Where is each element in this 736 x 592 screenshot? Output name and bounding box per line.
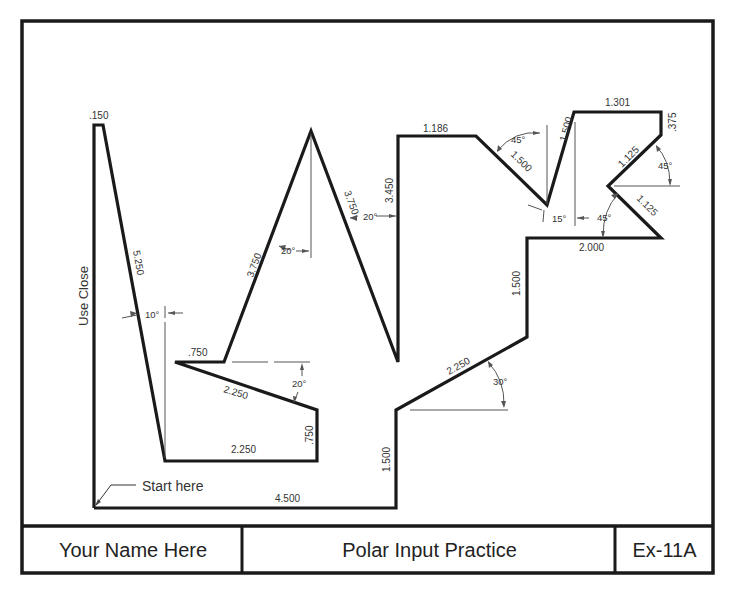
dim-inner-vertical: .750: [304, 425, 315, 445]
dim-angle-v: 45°: [511, 134, 526, 145]
dim-top-right-horizontal: 1.301: [605, 97, 630, 108]
dim-top-mid-horizontal: 1.186: [423, 123, 448, 134]
dim-bottom: 4.500: [275, 493, 300, 504]
title-block-author: Your Name Here: [24, 528, 242, 572]
dim-angle-peak-left: 20°: [281, 245, 296, 256]
title-block-sheet-id: Ex-11A: [617, 528, 712, 572]
drawing-sheet: .150 5.250 10° .750 2.250 20° .750 2.250…: [0, 0, 736, 592]
dim-peak-right: 3.750: [342, 189, 361, 217]
note-use-close: Use Close: [76, 266, 91, 326]
dim-angle-15: 15°: [552, 213, 567, 224]
dim-right-mid-vertical: 1.500: [511, 271, 522, 296]
dim-long-slope: 5.250: [131, 249, 146, 276]
dim-angle-lower-notch: 45°: [597, 212, 612, 223]
note-start-here: Start here: [142, 478, 204, 494]
dim-right-lower-vertical: 1.500: [381, 447, 392, 472]
dim-steep-edge: 1.500: [557, 115, 574, 142]
dim-inner-short: .750: [188, 347, 208, 358]
dim-angle-upper-notch: 45°: [658, 160, 673, 171]
part-outline: [94, 112, 661, 508]
dim-top-right-vertical: .375: [667, 112, 678, 132]
dim-step-horizontal: 2.000: [579, 242, 604, 253]
dim-tall-vertical: 3.450: [384, 178, 395, 203]
dim-angle-peak-right: 20°: [363, 211, 378, 222]
dim-angle-inner: 20°: [292, 378, 307, 389]
start-leader: [96, 485, 136, 505]
title-block-title: Polar Input Practice: [244, 528, 615, 572]
dim-inner-bottom: 2.250: [231, 444, 256, 455]
dimension-labels: .150 5.250 10° .750 2.250 20° .750 2.250…: [89, 97, 678, 504]
dim-angle-long: 10°: [145, 309, 160, 320]
dim-angle-30: 30°: [493, 376, 508, 387]
dim-top-tip: .150: [89, 110, 109, 121]
